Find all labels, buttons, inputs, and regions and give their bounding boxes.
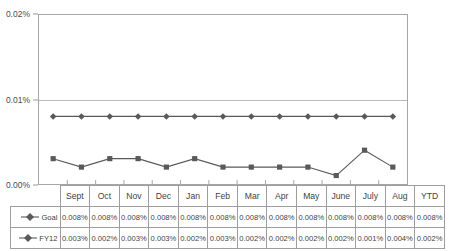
square-marker — [164, 165, 169, 170]
table-cell: 0.004% — [385, 228, 415, 249]
y-tick-label: 0.01% — [6, 95, 30, 104]
legend-label: Goal — [41, 213, 57, 222]
square-marker — [362, 148, 367, 153]
square-marker — [305, 165, 310, 170]
diamond-marker — [106, 113, 113, 120]
table-cell: 0.008% — [267, 207, 297, 228]
square-marker — [135, 156, 140, 161]
square-marker — [192, 156, 197, 161]
table-row: Goal0.008%0.008%0.008%0.008%0.008%0.008%… — [11, 207, 445, 228]
legend-goal: Goal — [11, 207, 61, 228]
square-marker — [334, 173, 339, 178]
column-header-ytd: YTD — [415, 186, 445, 207]
square-marker — [79, 165, 84, 170]
table-cell: 0.008% — [208, 207, 238, 228]
table-cell: 0.008% — [60, 207, 90, 228]
series-line — [53, 150, 393, 175]
diamond-marker — [220, 113, 227, 120]
table-cell: 0.008% — [178, 207, 208, 228]
plot-area — [38, 14, 408, 185]
table-cell: 0.002% — [90, 228, 120, 249]
series-goal — [50, 113, 396, 120]
column-header-apr: Apr — [267, 186, 297, 207]
column-header-feb: Feb — [208, 186, 238, 207]
chart-container: 0.00%0.01%0.02% SeptOctNovDecJanFebMarAp… — [0, 0, 450, 251]
diamond-marker — [191, 113, 198, 120]
column-header-june: June — [326, 186, 356, 207]
table-cell: 0.003% — [208, 228, 238, 249]
column-header-oct: Oct — [90, 186, 120, 207]
diamond-marker — [333, 113, 340, 120]
table-cell: 0.002% — [326, 228, 356, 249]
column-header-dec: Dec — [149, 186, 179, 207]
table-row: FY120.003%0.002%0.003%0.003%0.002%0.003%… — [11, 228, 445, 249]
table-cell: 0.002% — [267, 228, 297, 249]
diamond-marker — [50, 113, 57, 120]
table-header-row: SeptOctNovDecJanFebMarAprMayJuneJulyAugY… — [11, 186, 445, 207]
data-table: SeptOctNovDecJanFebMarAprMayJuneJulyAugY… — [10, 185, 445, 249]
column-header-sept: Sept — [60, 186, 90, 207]
column-header-july: July — [356, 186, 386, 207]
table-cell: 0.002% — [237, 228, 267, 249]
diamond-marker — [248, 113, 255, 120]
square-marker — [107, 156, 112, 161]
diamond-marker — [390, 113, 397, 120]
table-cell: 0.003% — [60, 228, 90, 249]
table-cell: 0.003% — [119, 228, 149, 249]
legend-marker-icon — [18, 232, 38, 244]
column-header-nov: Nov — [119, 186, 149, 207]
table-cell: 0.008% — [297, 207, 327, 228]
diamond-marker — [276, 113, 283, 120]
legend-marker-icon — [20, 211, 40, 223]
diamond-marker — [135, 113, 142, 120]
table-cell: 0.008% — [237, 207, 267, 228]
table-cell: 0.008% — [149, 207, 179, 228]
square-marker — [390, 165, 395, 170]
gridline — [39, 100, 407, 101]
table-cell: 0.001% — [356, 228, 386, 249]
table-corner — [11, 186, 61, 207]
table-cell: 0.008% — [385, 207, 415, 228]
table-cell: 0.002% — [415, 228, 445, 249]
diamond-marker — [361, 113, 368, 120]
table-cell: 0.008% — [90, 207, 120, 228]
column-header-jan: Jan — [178, 186, 208, 207]
legend-label: FY12 — [39, 234, 57, 243]
square-marker — [220, 165, 225, 170]
y-tick-label: 0.02% — [6, 10, 30, 19]
diamond-marker — [78, 113, 85, 120]
series-fy12 — [51, 148, 396, 178]
diamond-marker — [305, 113, 312, 120]
y-axis: 0.00%0.01%0.02% — [0, 0, 38, 190]
table-cell: 0.002% — [297, 228, 327, 249]
legend-fy12: FY12 — [11, 228, 61, 249]
square-marker — [249, 165, 254, 170]
square-marker — [51, 156, 56, 161]
square-marker — [277, 165, 282, 170]
table-cell: 0.008% — [356, 207, 386, 228]
table-cell: 0.008% — [326, 207, 356, 228]
column-header-aug: Aug — [385, 186, 415, 207]
table-cell: 0.008% — [415, 207, 445, 228]
column-header-may: May — [297, 186, 327, 207]
table-cell: 0.003% — [149, 228, 179, 249]
column-header-mar: Mar — [237, 186, 267, 207]
table-cell: 0.002% — [178, 228, 208, 249]
diamond-marker — [163, 113, 170, 120]
table-cell: 0.008% — [119, 207, 149, 228]
